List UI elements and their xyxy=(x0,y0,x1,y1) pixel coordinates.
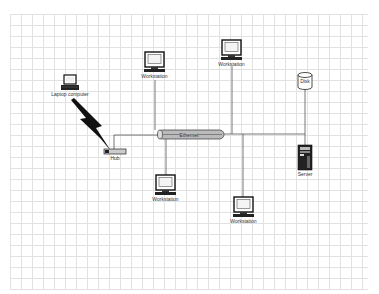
workstation-label: Workstation xyxy=(141,73,168,79)
hub-label: Hub xyxy=(110,155,119,161)
ethernet-label: Ethernet xyxy=(180,132,200,138)
workstation-label: Workstation xyxy=(152,196,179,202)
workstation-icon[interactable]: Workstation xyxy=(230,197,257,224)
database-icon[interactable]: Disk xyxy=(298,73,312,90)
workstation-icon[interactable]: Workstation xyxy=(141,52,168,79)
network-diagram: Ethernet Laptop computer Hub Workstation… xyxy=(0,0,379,294)
workstation-icon[interactable]: Workstation xyxy=(152,175,179,202)
workstation-label: Workstation xyxy=(230,218,257,224)
server-label: Server xyxy=(298,171,313,177)
hub-icon[interactable]: Hub xyxy=(104,149,126,161)
server-icon[interactable]: Server xyxy=(298,145,313,177)
workstation-icon[interactable]: Workstation xyxy=(218,40,245,67)
laptop-icon[interactable]: Laptop computer xyxy=(51,75,89,97)
workstation-label: Workstation xyxy=(218,61,245,67)
laptop-label: Laptop computer xyxy=(51,91,89,97)
ethernet-bus-icon[interactable]: Ethernet xyxy=(158,130,225,139)
wireless-link-icon xyxy=(71,98,111,151)
disk-label: Disk xyxy=(300,78,310,84)
